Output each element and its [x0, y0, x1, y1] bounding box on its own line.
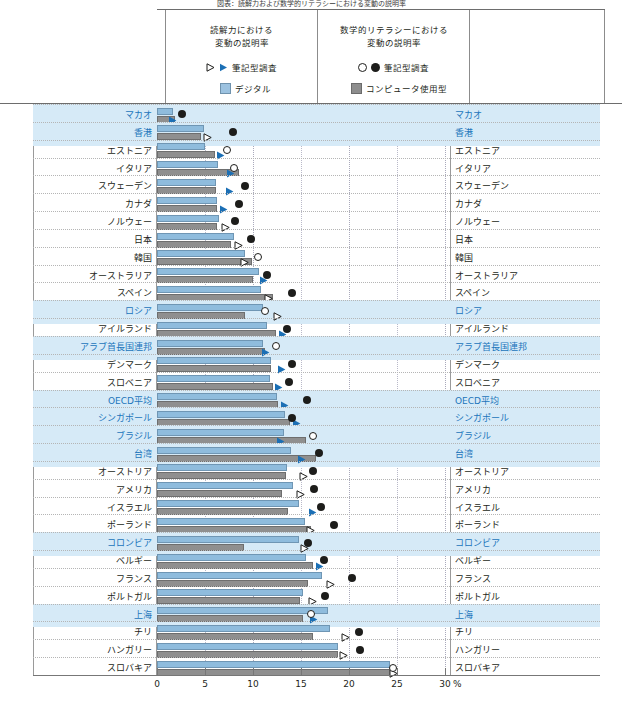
- x-axis-unit-label: %: [453, 679, 462, 689]
- marker-triangle-solid: [168, 110, 177, 119]
- marker-circle-solid: [288, 360, 296, 368]
- marker-triangle-hollow: [264, 288, 273, 297]
- plot-outer: マカオマカオ香港香港エストニアエストニアイタリアイタリアスウェーデンスウェーデン…: [0, 104, 622, 675]
- x-tick-label-15: 15: [295, 679, 306, 689]
- x-tick-label-20: 20: [343, 679, 354, 689]
- marker-triangle-solid: [297, 449, 306, 458]
- marker-circle-solid: [330, 521, 338, 529]
- x-tick-5: [205, 668, 206, 675]
- chart-legend: 読解力における 変動の説明率 筆記型調査 デジタル 数学的リテラシーにおける 変: [157, 10, 605, 103]
- bar-reading-digital: [157, 357, 271, 364]
- x-tick-25: [397, 668, 398, 675]
- marker-circle-solid: [285, 378, 293, 386]
- bar-reading-digital: [157, 197, 217, 204]
- marker-circle-solid: [283, 325, 291, 333]
- marker-triangle-hollow: [221, 217, 230, 226]
- legend-group-math: 数学的リテラシーにおける 変動の説明率 筆記型調査 コンピュータ使用型: [317, 10, 469, 103]
- bar-reading-digital: [157, 429, 284, 436]
- legend-reading-digital-label: デジタル: [235, 82, 271, 94]
- marker-circle-solid: [247, 235, 255, 243]
- marker-triangle-solid: [219, 199, 228, 208]
- marker-circle-hollow: [223, 146, 231, 154]
- legend-item-math-computer: コンピュータ使用型: [318, 82, 469, 94]
- marker-triangle-solid: [308, 502, 317, 511]
- swatch-blue-icon: [220, 83, 231, 94]
- bar-reading-digital: [157, 304, 263, 311]
- bar-reading-digital: [157, 161, 218, 168]
- bar-reading-digital: [157, 340, 263, 347]
- marker-triangle-solid: [225, 181, 234, 190]
- marker-circle-solid: [309, 467, 317, 475]
- bar-reading-digital: [157, 572, 322, 579]
- chart-root: 図表：読解力および数学的リテラシーにおける変動の説明率 読解力における 変動の説…: [0, 0, 622, 709]
- legend-group-reading: 読解力における 変動の説明率 筆記型調査 デジタル: [165, 10, 317, 103]
- x-tick-label-10: 10: [247, 679, 258, 689]
- marker-circle-solid: [241, 182, 249, 190]
- legend-math-paper-label: 筆記型調査: [384, 61, 429, 73]
- marker-circle-solid: [317, 503, 325, 511]
- bar-reading-digital: [157, 589, 303, 596]
- x-tick-label-30: 30: [439, 679, 450, 689]
- legend-reading-heading: 読解力における 変動の説明率: [166, 24, 317, 49]
- bar-reading-digital: [157, 482, 293, 489]
- chart-row: スロバキアスロバキア: [0, 657, 622, 681]
- marker-triangle-solid: [261, 342, 270, 351]
- bar-reading-digital: [157, 322, 267, 329]
- marker-circle-hollow: [230, 164, 238, 172]
- legend-reading-heading-line1: 読解力における: [210, 25, 273, 35]
- bar-reading-digital: [157, 536, 299, 543]
- x-tick-label-5: 5: [202, 679, 208, 689]
- marker-triangle-hollow: [339, 645, 348, 654]
- bar-reading-digital: [157, 286, 261, 293]
- marker-triangle-solid: [280, 395, 289, 404]
- bar-reading-digital: [157, 464, 287, 471]
- bar-reading-digital: [157, 554, 306, 561]
- marker-circle-hollow: [307, 610, 315, 618]
- x-axis-line: [33, 675, 600, 676]
- circle-solid-icon: [371, 63, 380, 72]
- bar-reading-digital: [157, 125, 204, 132]
- x-tick-label-0: 0: [154, 679, 160, 689]
- marker-triangle-solid: [276, 431, 285, 440]
- row-label-right: スロバキア: [455, 657, 500, 681]
- bar-reading-digital: [157, 411, 285, 418]
- legend-spacer: [469, 10, 605, 103]
- marker-triangle-hollow: [341, 627, 350, 636]
- marker-triangle-hollow: [296, 484, 305, 493]
- x-tick-10: [253, 668, 254, 675]
- chart-title: 図表：読解力および数学的リテラシーにおける変動の説明率: [0, 0, 622, 9]
- legend-reading-heading-line2: 変動の説明率: [215, 38, 269, 48]
- marker-triangle-hollow: [308, 591, 317, 600]
- marker-triangle-hollow: [326, 574, 335, 583]
- bar-reading-digital: [157, 179, 216, 186]
- legend-item-reading-digital: デジタル: [166, 82, 317, 94]
- circle-hollow-icon: [358, 63, 367, 72]
- marker-circle-hollow: [309, 432, 317, 440]
- marker-circle-hollow: [254, 253, 262, 261]
- marker-circle-solid: [356, 646, 364, 654]
- marker-circle-solid: [235, 200, 243, 208]
- marker-circle-solid: [320, 556, 328, 564]
- legend-math-heading: 数学的リテラシーにおける 変動の説明率: [318, 24, 469, 49]
- marker-triangle-solid: [274, 377, 283, 386]
- marker-circle-solid: [304, 539, 312, 547]
- bar-reading-digital: [157, 447, 291, 454]
- triangle-hollow-icon: [206, 63, 215, 72]
- bar-reading-digital: [157, 268, 259, 275]
- legend-item-math-paper: 筆記型調査: [318, 61, 469, 73]
- bar-reading-digital: [157, 233, 234, 240]
- marker-circle-solid: [310, 485, 318, 493]
- marker-triangle-hollow: [234, 235, 243, 244]
- marker-circle-solid: [288, 289, 296, 297]
- marker-circle-solid: [303, 396, 311, 404]
- marker-triangle-hollow: [306, 520, 315, 529]
- marker-triangle-hollow: [240, 252, 249, 261]
- legend-math-heading-line1: 数学的リテラシーにおける: [340, 25, 448, 35]
- bar-reading-digital: [157, 500, 299, 507]
- legend-math-computer-label: コンピュータ使用型: [366, 82, 447, 94]
- marker-circle-solid: [321, 592, 329, 600]
- bar-reading-digital: [157, 518, 305, 525]
- bar-reading-digital: [157, 250, 245, 257]
- legend-math-heading-line2: 変動の説明率: [367, 38, 421, 48]
- bar-reading-digital: [157, 661, 390, 668]
